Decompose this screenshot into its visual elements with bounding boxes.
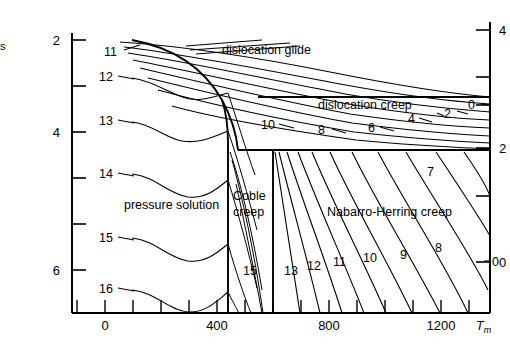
contour-label-sr-10: 10 <box>261 118 275 132</box>
contour-label-nh-11: 11 <box>333 255 346 269</box>
contour-label-sr-8: 8 <box>318 123 325 137</box>
contour-label-coble-15: 15 <box>243 264 257 278</box>
contour-label-nh-12: 12 <box>307 259 321 273</box>
axis-tick-labels: 2 4 6 4 2 0 0 400 800 1200 Tm s <box>0 23 506 335</box>
x-tick-0: 0 <box>101 318 108 333</box>
deformation-mechanism-map: 2 4 6 4 2 0 0 400 800 1200 Tm s dislocat… <box>0 0 510 346</box>
region-label-coble-creep-line2: creep <box>233 205 264 219</box>
nabarro-herring-contours <box>275 152 490 313</box>
y-left-tick-1: 4 <box>53 125 60 140</box>
y-right-tick-2: 0 <box>499 255 506 270</box>
y-right-tick-1: 2 <box>499 141 506 156</box>
x-tick-2: 800 <box>318 318 340 333</box>
y-axis-right-ticks <box>476 30 490 262</box>
region-label-dislocation-creep: dislocation creep <box>318 98 412 112</box>
region-label-pressure-solution: pressure solution <box>124 198 219 212</box>
contour-label-nh-13: 13 <box>284 264 298 278</box>
x-axis-title: Tm <box>476 319 492 335</box>
region-label-coble-creep-line1: Coble <box>233 189 266 203</box>
contour-label-sr-6: 6 <box>368 121 375 135</box>
contour-label-sr-4: 4 <box>408 112 415 126</box>
x-tick-1: 400 <box>206 318 228 333</box>
contour-label-ps-14: 14 <box>99 167 113 181</box>
pressure-solution-contours <box>132 78 228 312</box>
y-left-tick-2: 6 <box>53 263 60 278</box>
contour-label-nh-9: 9 <box>400 248 407 262</box>
y-right-tick-0: 4 <box>499 23 506 38</box>
contour-label-ps-15: 15 <box>99 231 113 245</box>
contour-label-ps-12: 12 <box>99 70 113 84</box>
x-tick-3: 1200 <box>427 318 456 333</box>
y-left-tick-0: 2 <box>53 33 60 48</box>
strain-rate-contours <box>120 42 490 149</box>
region-label-nabarro-herring: Nabarro-Herring creep <box>327 205 452 219</box>
contour-label-nh-10: 10 <box>363 251 377 265</box>
contour-label-ps-16: 16 <box>99 282 113 296</box>
contour-label-nh-7: 7 <box>427 165 434 179</box>
contour-label-right-0: 0 <box>492 255 499 269</box>
contour-label-sr-2: 2 <box>444 107 451 121</box>
region-labels: dislocation glide dislocation creep pres… <box>124 43 452 219</box>
contour-label-ps-13: 13 <box>99 114 113 128</box>
contour-label-ps-11: 11 <box>104 45 117 59</box>
chart-svg: 2 4 6 4 2 0 0 400 800 1200 Tm s dislocat… <box>0 0 510 346</box>
region-label-dislocation-glide: dislocation glide <box>222 43 311 57</box>
contour-label-sr-0: 0 <box>468 98 475 112</box>
y-axis-left-ticks <box>72 40 86 270</box>
contour-label-nh-8: 8 <box>435 241 442 255</box>
y-axis-edge-glyph: s <box>0 40 6 52</box>
